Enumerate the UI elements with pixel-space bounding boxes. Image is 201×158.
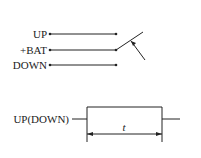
switch-diagram: UP +BAT DOWN xyxy=(13,28,145,71)
actuator-arrow-icon xyxy=(131,41,136,46)
duration-label: t xyxy=(122,121,126,133)
signal-label: UP(DOWN) xyxy=(13,113,69,126)
terminal-label-up: UP xyxy=(33,28,47,40)
contact-dot-down xyxy=(115,64,118,67)
timing-diagram: UP(DOWN) t xyxy=(13,107,180,142)
arrowhead-right-icon xyxy=(156,132,162,136)
diagram-canvas: UP +BAT DOWN UP(DOWN) t xyxy=(0,0,201,158)
contact-dot-up xyxy=(115,33,118,36)
switch-blade xyxy=(116,32,143,50)
arrowhead-left-icon xyxy=(87,132,93,136)
terminal-label-down: DOWN xyxy=(13,59,47,71)
terminal-label-bat: +BAT xyxy=(20,44,47,56)
pulse-waveform xyxy=(72,107,180,119)
